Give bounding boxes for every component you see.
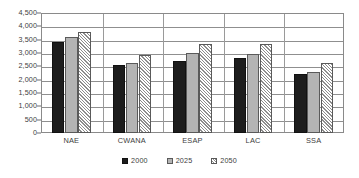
legend-entry: 2025 bbox=[167, 157, 193, 165]
legend-swatch-icon bbox=[167, 158, 173, 164]
y-axis-tick-label: 3,000 bbox=[19, 49, 38, 57]
y-axis-tick-label: 4,000 bbox=[19, 22, 38, 30]
bar-ssa-2000 bbox=[294, 74, 307, 133]
bar-cwana-2000 bbox=[113, 65, 126, 133]
bar-lac-2025 bbox=[247, 54, 260, 133]
y-axis-tick-label: 2,000 bbox=[19, 76, 38, 84]
bar-group bbox=[102, 13, 163, 133]
bars-layer bbox=[41, 13, 344, 133]
bar-esap-2050 bbox=[199, 44, 212, 133]
legend-entry: 2000 bbox=[122, 157, 148, 165]
bar-group bbox=[41, 13, 102, 133]
x-axis-tick-label: LAC bbox=[246, 136, 261, 146]
y-axis-tick-label: 1,500 bbox=[19, 89, 38, 97]
bar-group bbox=[283, 13, 344, 133]
bar-lac-2000 bbox=[234, 58, 247, 133]
bar-esap-2025 bbox=[186, 53, 199, 133]
bar-group bbox=[223, 13, 284, 133]
x-axis-tick-label: SSA bbox=[306, 136, 321, 146]
bar-cwana-2050 bbox=[139, 55, 152, 133]
legend-swatch-icon bbox=[122, 158, 128, 164]
legend-label: 2050 bbox=[220, 157, 237, 165]
x-axis-tick-label: NAE bbox=[63, 136, 79, 146]
y-axis-tick-label: 1,000 bbox=[19, 102, 38, 110]
y-axis: 05001,0001,5002,0002,5003,0003,5004,0004… bbox=[0, 13, 37, 133]
x-axis-tick-label: ESAP bbox=[182, 136, 203, 146]
y-axis-tick-label: 3,500 bbox=[19, 36, 38, 44]
legend-entry: 2050 bbox=[211, 157, 237, 165]
legend-label: 2025 bbox=[176, 157, 193, 165]
x-axis: NAECWANAESAPLACSSA bbox=[41, 136, 344, 150]
bar-ssa-2025 bbox=[307, 72, 320, 133]
chart-legend: 200020252050 bbox=[0, 157, 359, 165]
legend-label: 2000 bbox=[131, 157, 148, 165]
y-axis-tick-label: 4,500 bbox=[19, 9, 38, 17]
bar-ssa-2050 bbox=[321, 63, 334, 133]
legend-swatch-icon bbox=[211, 158, 217, 164]
bar-lac-2050 bbox=[260, 44, 273, 133]
bar-nae-2025 bbox=[65, 37, 78, 133]
bar-nae-2000 bbox=[52, 42, 65, 133]
bar-esap-2000 bbox=[173, 61, 186, 133]
x-axis-tick-label: CWANA bbox=[118, 136, 146, 146]
bar-cwana-2025 bbox=[126, 63, 139, 133]
bar-chart-figure: 05001,0001,5002,0002,5003,0003,5004,0004… bbox=[0, 0, 359, 178]
y-axis-tick-label: 2,500 bbox=[19, 62, 38, 70]
y-axis-tick-label: 500 bbox=[25, 116, 37, 124]
bar-nae-2050 bbox=[78, 32, 91, 133]
bar-group bbox=[162, 13, 223, 133]
